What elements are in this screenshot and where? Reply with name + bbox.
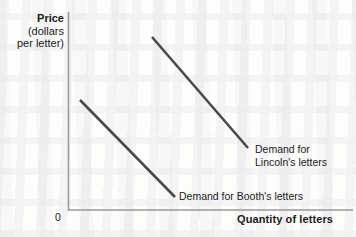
- y-axis-label: Price (dollars per letter): [17, 12, 64, 50]
- demand-curve-lincoln: [152, 37, 248, 148]
- demand-curve-lincoln-label-line2: Lincoln's letters: [255, 156, 327, 169]
- y-axis-subtitle-line1: (dollars: [17, 25, 64, 38]
- y-axis-title: Price: [17, 12, 64, 25]
- demand-curve-booth-label: Demand for Booth's letters: [179, 190, 303, 203]
- y-axis-subtitle-line2: per letter): [17, 37, 64, 50]
- demand-curve-booth: [80, 100, 175, 197]
- origin-label: 0: [55, 211, 61, 224]
- x-axis-label: Quantity of letters: [237, 213, 333, 226]
- demand-curve-lincoln-label: Demand for Lincoln's letters: [255, 143, 327, 168]
- demand-curves-figure: Price (dollars per letter) Quantity of l…: [0, 0, 356, 237]
- demand-curve-lincoln-label-line1: Demand for: [255, 143, 327, 156]
